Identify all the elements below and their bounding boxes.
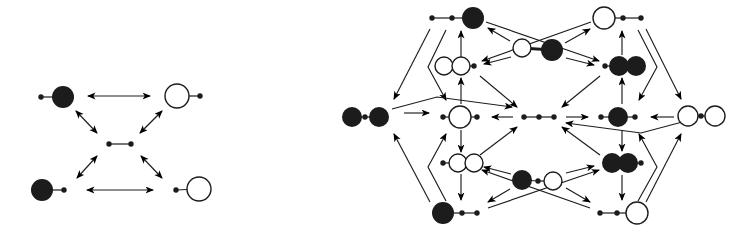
white-circle-icon <box>165 84 189 108</box>
small-dot-icon <box>602 63 607 68</box>
right-network-arrow-15 <box>482 170 590 208</box>
right-network-arrow-31 <box>566 166 594 173</box>
right-network-arrow-34 <box>480 127 517 155</box>
black-circle-icon <box>369 107 389 127</box>
left-network-arrow-2 <box>140 111 162 133</box>
left-network-arrow-3 <box>77 156 97 178</box>
small-dot-icon <box>536 114 541 119</box>
right-network-arrow-17 <box>394 134 430 202</box>
graph-node-n7-mid-left <box>440 106 479 128</box>
right-network-arrow-27 <box>566 58 594 65</box>
right-network-arrow-13 <box>482 22 591 61</box>
right-network-arrow-18 <box>646 29 681 99</box>
graph-node-n11-lower-left-pair <box>440 154 483 172</box>
white-circle-icon <box>678 106 698 126</box>
black-circle-icon <box>541 39 563 61</box>
white-circle-icon <box>187 177 211 201</box>
small-dot-icon <box>429 15 434 20</box>
white-circle-icon <box>452 57 470 75</box>
left-network <box>31 84 211 201</box>
figure-canvas <box>0 0 756 235</box>
black-circle-icon <box>626 56 646 76</box>
small-dot-icon <box>440 160 445 165</box>
small-dot-icon <box>620 15 625 20</box>
right-network-arrow-19 <box>646 134 681 202</box>
black-circle-icon <box>512 170 532 190</box>
white-circle-icon <box>513 39 531 57</box>
graph-node-n9-mid-right <box>598 107 637 127</box>
small-dot-icon <box>597 210 602 215</box>
white-circle-icon <box>465 154 483 172</box>
right-network-arrow-32 <box>480 76 517 107</box>
small-dot-icon <box>449 15 454 20</box>
graph-node-n2-top-right <box>593 7 644 29</box>
small-dot-icon <box>197 93 202 98</box>
small-dot-icon <box>471 63 476 68</box>
white-circle-icon <box>626 202 648 224</box>
black-circle-icon <box>432 202 454 224</box>
right-network-arrow-25 <box>565 29 590 43</box>
right-network-arrow-35 <box>562 127 600 155</box>
graph-node-n10-mid-far-right <box>678 106 725 126</box>
right-network-arrow-26 <box>484 57 511 64</box>
small-dot-icon <box>535 178 540 183</box>
right-network-arrow-14 <box>488 170 599 208</box>
small-dot-icon <box>440 114 445 119</box>
graph-node-n13-center-lower-dimer <box>512 170 562 190</box>
small-dot-icon <box>598 114 603 119</box>
right-network-arrow-29 <box>566 188 590 202</box>
small-dot-icon <box>474 114 479 119</box>
right-network-arrow-23 <box>638 134 657 201</box>
small-dot-icon <box>638 160 643 165</box>
white-circle-icon <box>435 57 453 75</box>
small-dot-icon <box>61 187 66 192</box>
graph-node-n3-center-upper-dimer <box>513 39 563 61</box>
right-network-arrow-30 <box>484 167 511 174</box>
right-network-arrow-33 <box>562 76 600 107</box>
right-network-arrow-22 <box>428 134 446 201</box>
white-circle-icon <box>544 172 562 190</box>
right-network-arrow-24 <box>488 28 510 41</box>
right-network-arrow-36 <box>392 97 512 109</box>
graph-node-n8-mid-center <box>521 114 556 119</box>
white-circle-icon <box>449 154 467 172</box>
left-network-arrow-1 <box>76 111 97 133</box>
small-dot-icon <box>459 210 464 215</box>
small-dot-icon <box>521 114 526 119</box>
graph-node-n14-bottom-left <box>432 202 480 224</box>
graph-node-bottom-left-black-dimer <box>31 179 67 201</box>
white-circle-icon <box>593 7 615 29</box>
graph-node-n5-upper-right-pair <box>602 56 646 76</box>
right-network-arrow-28 <box>488 189 510 202</box>
small-dot-icon <box>551 114 556 119</box>
small-dot-icon <box>38 94 43 99</box>
graph-node-top-right-white-dimer <box>165 84 203 108</box>
graph-node-n15-bottom-right <box>597 202 648 224</box>
white-circle-icon <box>705 106 725 126</box>
graph-node-n4-upper-left-pair <box>435 57 477 75</box>
small-dot-icon <box>698 113 703 118</box>
graph-node-n6-mid-far-left <box>342 107 389 127</box>
black-circle-icon <box>462 7 484 29</box>
black-circle-icon <box>618 153 638 173</box>
network-diagrams-svg <box>0 0 756 235</box>
right-network-arrow-16 <box>394 29 430 99</box>
graph-node-n12-lower-right-pair <box>602 153 644 173</box>
graph-node-bottom-right-white-dimer <box>173 177 211 201</box>
small-dot-icon <box>474 210 479 215</box>
small-dot-icon <box>362 114 367 119</box>
graph-node-center-dot-pair <box>106 141 133 146</box>
white-circle-icon <box>449 106 471 128</box>
small-dot-icon <box>106 141 111 146</box>
black-circle-icon <box>342 107 362 127</box>
left-network-arrow-4 <box>141 156 162 178</box>
black-circle-icon <box>31 179 53 201</box>
graph-node-n1-top-left <box>429 7 484 29</box>
black-circle-icon <box>608 107 628 127</box>
small-dot-icon <box>632 114 637 119</box>
black-circle-icon <box>52 86 74 108</box>
right-network <box>342 7 725 224</box>
small-dot-icon <box>128 141 133 146</box>
small-dot-icon <box>614 210 619 215</box>
small-dot-icon <box>638 15 643 20</box>
